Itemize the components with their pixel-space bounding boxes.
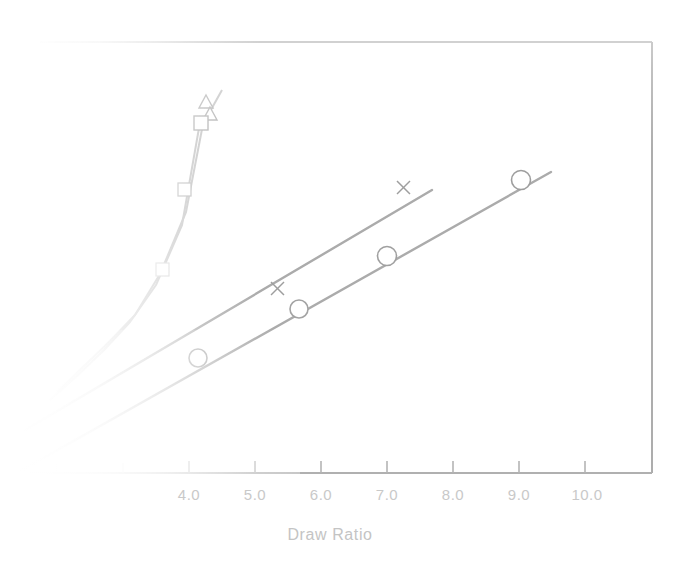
marker-square bbox=[178, 183, 191, 196]
series-cross bbox=[25, 181, 432, 430]
series-square-line bbox=[50, 128, 199, 400]
figure-container: 4.0 5.0 6.0 7.0 8.0 9.0 10.0 Draw Ratio bbox=[0, 0, 681, 583]
marker-square bbox=[156, 263, 169, 276]
x-axis-ticks-faded bbox=[57, 463, 123, 473]
marker-square bbox=[194, 116, 208, 130]
axis-frame bbox=[30, 42, 652, 473]
series-square bbox=[50, 116, 208, 400]
plot-area bbox=[0, 0, 681, 583]
x-axis-ticks bbox=[189, 461, 585, 473]
series-cross-line bbox=[25, 190, 432, 430]
series-circle-line bbox=[22, 172, 551, 470]
marker-circle bbox=[512, 171, 531, 190]
marker-circle bbox=[378, 247, 397, 266]
marker-triangle bbox=[199, 95, 213, 108]
marker-cross bbox=[397, 181, 410, 194]
marker-circle bbox=[290, 300, 308, 318]
series-circle bbox=[22, 171, 551, 471]
marker-circle bbox=[189, 349, 207, 367]
marker-cross bbox=[271, 282, 284, 295]
